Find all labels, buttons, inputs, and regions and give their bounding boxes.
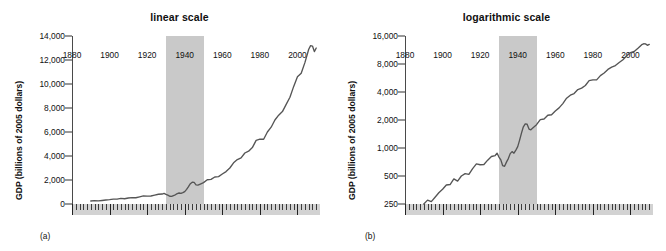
- x-minor-tick: [275, 204, 276, 210]
- x-minor-tick: [113, 204, 114, 210]
- x-minor-tick: [282, 204, 283, 210]
- y-tick-mark: [398, 148, 405, 149]
- x-minor-tick: [140, 204, 141, 210]
- x-minor-tick: [578, 204, 579, 210]
- x-minor-tick: [488, 204, 489, 210]
- x-minor-tick: [301, 204, 302, 210]
- x-minor-tick: [305, 204, 306, 210]
- x-minor-tick: [585, 204, 586, 210]
- x-minor-tick: [416, 204, 417, 210]
- x-minor-tick: [128, 204, 129, 210]
- x-minor-tick: [95, 204, 96, 210]
- x-minor-tick: [649, 204, 650, 210]
- x-minor-tick: [106, 204, 107, 210]
- y-tick-mark: [65, 156, 72, 157]
- x-major-tick: [72, 204, 73, 215]
- x-minor-tick: [521, 204, 522, 210]
- x-minor-tick: [424, 204, 425, 210]
- x-minor-tick: [514, 204, 515, 210]
- panel-a-gdp-line: [72, 36, 320, 204]
- x-minor-tick: [428, 204, 429, 210]
- x-minor-tick: [102, 204, 103, 210]
- x-minor-tick: [230, 204, 231, 210]
- y-tick-label: 1,000: [377, 143, 398, 153]
- x-minor-tick: [533, 204, 534, 210]
- x-minor-tick: [435, 204, 436, 210]
- x-minor-tick: [256, 204, 257, 210]
- x-minor-tick: [143, 204, 144, 210]
- y-tick-label: 2,000: [377, 115, 398, 125]
- x-minor-tick: [204, 204, 205, 210]
- y-tick-label: 250: [384, 199, 398, 209]
- x-minor-tick: [173, 204, 174, 210]
- x-minor-tick: [574, 204, 575, 210]
- x-minor-tick: [552, 204, 553, 210]
- x-minor-tick: [211, 204, 212, 210]
- x-minor-tick: [309, 204, 310, 210]
- x-major-tick: [630, 204, 631, 215]
- x-minor-tick: [162, 204, 163, 210]
- x-minor-tick: [409, 204, 410, 210]
- x-minor-tick: [623, 204, 624, 210]
- x-minor-tick: [608, 204, 609, 210]
- x-minor-tick: [226, 204, 227, 210]
- x-minor-tick: [151, 204, 152, 210]
- x-minor-tick: [446, 204, 447, 210]
- y-tick-label: 10,000: [39, 79, 65, 89]
- x-major-tick: [480, 204, 481, 215]
- x-minor-tick: [177, 204, 178, 210]
- x-major-tick: [405, 204, 406, 215]
- x-minor-tick: [117, 204, 118, 210]
- y-tick-mark: [398, 204, 405, 205]
- y-tick-label: 6,000: [44, 127, 65, 137]
- x-minor-tick: [87, 204, 88, 210]
- y-tick-mark: [398, 176, 405, 177]
- panel-logarithmic-scale: logarithmic scale GDP (billions of 2005 …: [333, 0, 666, 251]
- x-minor-tick: [286, 204, 287, 210]
- x-minor-tick: [589, 204, 590, 210]
- x-minor-tick: [80, 204, 81, 210]
- x-minor-tick: [166, 204, 167, 210]
- x-major-tick: [222, 204, 223, 215]
- x-minor-tick: [634, 204, 635, 210]
- panel-b-y-axis-title: GDP (billions of 2005 dollars): [347, 81, 357, 200]
- x-minor-tick: [279, 204, 280, 210]
- y-tick-label: 0: [60, 199, 65, 209]
- panel-b-sublabel: (b): [365, 231, 375, 241]
- y-tick-mark: [398, 120, 405, 121]
- x-minor-tick: [215, 204, 216, 210]
- x-minor-tick: [548, 204, 549, 210]
- x-minor-tick: [121, 204, 122, 210]
- x-minor-tick: [582, 204, 583, 210]
- y-tick-mark: [65, 36, 72, 37]
- x-minor-tick: [188, 204, 189, 210]
- x-minor-tick: [136, 204, 137, 210]
- y-tick-mark: [398, 64, 405, 65]
- x-minor-tick: [125, 204, 126, 210]
- x-minor-tick: [294, 204, 295, 210]
- x-minor-tick: [271, 204, 272, 210]
- y-tick-mark: [65, 180, 72, 181]
- x-minor-tick: [563, 204, 564, 210]
- panel-b-x-ticks: [405, 204, 653, 215]
- y-tick-label: 14,000: [39, 31, 65, 41]
- x-major-tick: [110, 204, 111, 215]
- x-major-tick: [593, 204, 594, 215]
- x-minor-tick: [200, 204, 201, 210]
- x-minor-tick: [604, 204, 605, 210]
- x-minor-tick: [461, 204, 462, 210]
- y-tick-label: 4,000: [44, 151, 65, 161]
- x-minor-tick: [83, 204, 84, 210]
- x-minor-tick: [267, 204, 268, 210]
- x-minor-tick: [155, 204, 156, 210]
- x-minor-tick: [413, 204, 414, 210]
- x-minor-tick: [469, 204, 470, 210]
- x-major-tick: [443, 204, 444, 215]
- x-minor-tick: [158, 204, 159, 210]
- x-minor-tick: [264, 204, 265, 210]
- panel-b-plot-area: 2505001,0002,0004,0008,00016,000 1880190…: [405, 36, 653, 204]
- x-minor-tick: [252, 204, 253, 210]
- panel-b-title: logarithmic scale: [333, 11, 666, 23]
- y-tick-label: 500: [384, 171, 398, 181]
- x-minor-tick: [506, 204, 507, 210]
